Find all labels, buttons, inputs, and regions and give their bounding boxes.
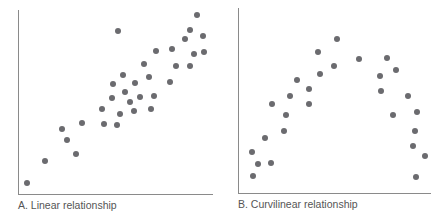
- x-axis: [238, 193, 431, 194]
- data-point: [393, 67, 399, 73]
- data-point: [410, 143, 416, 149]
- data-point: [269, 101, 275, 107]
- data-point: [249, 149, 255, 155]
- y-axis: [238, 8, 239, 194]
- data-point: [250, 173, 256, 179]
- data-point: [331, 63, 337, 69]
- data-point: [377, 73, 383, 79]
- data-point: [412, 128, 418, 134]
- data-point: [334, 36, 340, 42]
- data-point: [413, 174, 419, 180]
- data-point: [405, 93, 411, 99]
- data-point: [255, 161, 261, 167]
- data-point: [422, 153, 428, 159]
- data-point: [268, 160, 274, 166]
- data-point: [281, 128, 287, 134]
- data-point: [384, 55, 390, 61]
- data-point: [283, 112, 289, 118]
- data-point: [306, 86, 312, 92]
- panel-curvilinear: B. Curvilinear relationship: [0, 0, 442, 217]
- data-point: [378, 88, 384, 94]
- data-point: [306, 101, 312, 107]
- data-point: [287, 93, 293, 99]
- data-point: [315, 49, 321, 55]
- data-point: [294, 77, 300, 83]
- data-point: [356, 56, 362, 62]
- chart-caption: B. Curvilinear relationship: [238, 198, 358, 210]
- data-point: [414, 109, 420, 115]
- data-point: [317, 71, 323, 77]
- data-point: [390, 112, 396, 118]
- data-point: [262, 135, 268, 141]
